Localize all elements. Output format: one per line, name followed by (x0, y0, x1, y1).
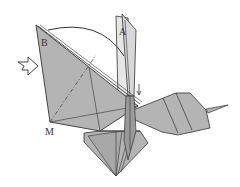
label-m: M (45, 126, 54, 137)
label-a: A (119, 26, 127, 37)
origami-diagram: B A M (0, 0, 240, 187)
push-arrow-icon (18, 57, 38, 75)
small-down-arrow-icon (137, 84, 141, 95)
tail-section (133, 93, 228, 135)
label-b: B (41, 37, 48, 48)
bottom-diamond (84, 131, 148, 176)
